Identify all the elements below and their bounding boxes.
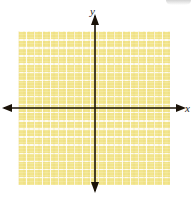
y-axis-bottom-arrowhead: [91, 182, 99, 193]
x-axis-label: x: [185, 103, 190, 114]
y-axis-label: y: [90, 6, 95, 17]
x-axis-left-arrowhead: [2, 104, 12, 112]
axes-layer: [0, 0, 191, 197]
coordinate-plane-figure: y x: [0, 0, 191, 197]
